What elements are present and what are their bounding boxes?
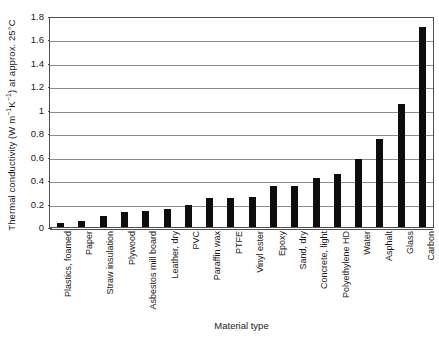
bar [249,197,256,227]
bar [334,174,341,227]
bar-slot [369,18,390,227]
x-axis-label-slot: PTFE [220,229,241,315]
y-axis-tick-label: 0 [39,223,44,233]
bar-slot [93,18,114,227]
bar [313,178,320,227]
bar-slot [242,18,263,227]
bar-slot [135,18,156,227]
x-axis-label-slot: Leather, dry [156,229,177,315]
bar-slot [199,18,220,227]
bar [142,211,149,227]
bar-series [50,18,433,227]
bar [164,209,171,227]
bar-slot [178,18,199,227]
x-axis-label-slot: Plywood [113,229,134,315]
bar-slot [50,18,71,227]
x-axis-label-slot: Epoxy [263,229,284,315]
y-axis-tick-label: 0.4 [31,176,44,186]
bar [398,104,405,227]
bar [270,186,277,227]
y-axis-tick-label: 1.6 [31,36,44,46]
y-axis-tick-label: 1.2 [31,83,44,93]
bar-slot [114,18,135,227]
bar [419,27,426,227]
y-axis-title-exponent-2: −1 [5,93,12,101]
y-axis-tick-labels: 1.81.61.41.210.80.60.40.20 [16,17,48,228]
bar-slot [220,18,241,227]
bar [206,198,213,227]
thermal-conductivity-bar-chart: Thermal conductivity (W m−1K−1) at appro… [0,0,439,344]
x-axis-label-slot: Straw insulation [92,229,113,315]
x-axis-label-slot: Plastics, foamed [49,229,70,315]
bar [376,139,383,227]
x-axis-label-slot: Vinyl ester [242,229,263,315]
bar-slot [284,18,305,227]
bar [291,186,298,227]
x-axis-label-slot: PVC [177,229,198,315]
bar [57,223,64,227]
x-axis-label-slot: Sand, dry [284,229,305,315]
x-axis-category-label: Carbon [427,231,436,261]
x-axis-title: Material type [49,320,434,331]
x-axis-label-slot: Glass [391,229,412,315]
bar [121,212,128,227]
x-axis-label-slot: Water [348,229,369,315]
x-axis-label-slot: Asphalt [370,229,391,315]
bar [185,205,192,227]
bar-slot [305,18,326,227]
bar [78,221,85,227]
y-axis-tick-label: 0.2 [31,200,44,210]
y-axis-tick-label: 1.8 [31,12,44,22]
x-axis-category-labels: Plastics, foamedPaperStraw insulationPly… [49,229,434,315]
bar [355,159,362,227]
bar-slot [412,18,433,227]
y-axis-tick-label: 1 [39,106,44,116]
bar-slot [263,18,284,227]
y-axis-tick-label: 1.4 [31,59,44,69]
bar [227,198,234,227]
y-axis-title-exponent-1: −1 [5,108,12,116]
bar-slot [156,18,177,227]
bar [100,216,107,227]
x-axis-label-slot: Paper [70,229,91,315]
bar-slot [348,18,369,227]
y-axis-tick-label: 0.8 [31,129,44,139]
bar-slot [71,18,92,227]
y-axis-tick-label: 0.6 [31,153,44,163]
x-axis-label-slot: Paraffin wax [199,229,220,315]
bar-slot [327,18,348,227]
bar-slot [391,18,412,227]
x-axis-label-slot: Polyethylene HD [327,229,348,315]
x-axis-label-slot: Asbestos mill board [135,229,156,315]
x-axis-label-slot: Concrete, light [306,229,327,315]
plot-area [49,17,434,228]
x-axis-label-slot: Carbon [413,229,434,315]
